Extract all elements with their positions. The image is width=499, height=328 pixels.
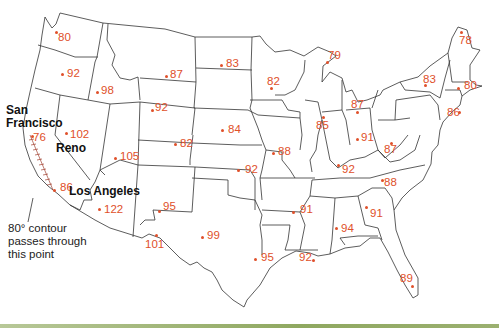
temperature-value: 88 <box>384 176 397 188</box>
station-dot-icon <box>151 109 154 112</box>
station-dot-icon <box>270 87 273 90</box>
annotation-pointer <box>28 198 33 222</box>
temperature-value: 84 <box>228 123 241 135</box>
city-label: Los Angeles <box>69 185 140 198</box>
temperature-value: 83 <box>423 73 436 85</box>
station-dot-icon <box>457 87 460 90</box>
station-dot-icon <box>61 73 64 76</box>
temperature-value: 94 <box>341 222 354 234</box>
station-dot-icon <box>254 258 257 261</box>
temperature-value: 87 <box>351 98 364 110</box>
temperature-value: 78 <box>459 34 472 46</box>
annotation-line-2: passes through <box>8 235 87 248</box>
station-dot-icon <box>155 234 158 237</box>
temperature-value: 95 <box>163 200 176 212</box>
temperature-value: 83 <box>226 57 239 69</box>
station-dot-icon <box>174 143 177 146</box>
temperature-value: 92 <box>299 251 312 263</box>
station-dot-icon <box>272 152 275 155</box>
temperature-value: 92 <box>155 101 168 113</box>
temperature-value: 86 <box>447 106 460 118</box>
temperature-value: 76 <box>33 131 46 143</box>
temperature-value: 102 <box>70 128 89 140</box>
temperature-value: 85 <box>316 119 329 131</box>
temperature-value: 92 <box>342 163 355 175</box>
station-dot-icon <box>220 64 223 67</box>
annotation-line-1: 80° contour <box>8 222 87 235</box>
temperature-value: 98 <box>101 84 114 96</box>
station-dot-icon <box>98 208 101 211</box>
station-dot-icon <box>158 210 161 213</box>
station-dot-icon <box>326 61 329 64</box>
temperature-value: 105 <box>120 150 139 162</box>
station-dot-icon <box>65 132 68 135</box>
city-label: Francisco <box>6 117 63 130</box>
temperature-value: 87 <box>170 68 183 80</box>
temperature-value: 95 <box>261 251 274 263</box>
temperature-value: 122 <box>104 203 123 215</box>
temperature-value: 88 <box>278 145 291 157</box>
station-dot-icon <box>312 259 315 262</box>
temperature-value: 82 <box>267 75 280 87</box>
temperature-value: 82 <box>180 137 193 149</box>
station-dot-icon <box>237 169 240 172</box>
temperature-value: 99 <box>207 229 220 241</box>
station-dot-icon <box>165 75 168 78</box>
temperature-value: 79 <box>328 49 341 61</box>
station-dot-icon <box>356 138 359 141</box>
station-dot-icon <box>337 164 340 167</box>
station-dot-icon <box>221 129 224 132</box>
annotation-line-3: this point <box>8 248 87 261</box>
station-dot-icon <box>96 91 99 94</box>
station-dot-icon <box>411 285 414 288</box>
station-dot-icon <box>335 227 338 230</box>
temperature-value: 91 <box>300 203 313 215</box>
station-dot-icon <box>53 189 56 192</box>
temperature-value: 80 <box>58 31 71 43</box>
bottom-divider <box>0 324 499 328</box>
city-label: Reno <box>56 142 86 155</box>
temperature-value: 92 <box>245 163 258 175</box>
contour-annotation: 80° contour passes through this point <box>8 222 87 261</box>
temperature-value: 91 <box>361 131 374 143</box>
temperature-value: 87 <box>384 143 397 155</box>
station-dot-icon <box>114 157 117 160</box>
station-dot-icon <box>365 206 368 209</box>
temperature-value: 91 <box>370 207 383 219</box>
temperature-value: 80 <box>464 79 477 91</box>
temperature-value: 92 <box>67 67 80 79</box>
temperature-value: 89 <box>400 272 413 284</box>
temperature-value: 101 <box>145 238 164 250</box>
station-dot-icon <box>201 236 204 239</box>
station-dot-icon <box>292 211 295 214</box>
station-dot-icon <box>356 111 359 114</box>
